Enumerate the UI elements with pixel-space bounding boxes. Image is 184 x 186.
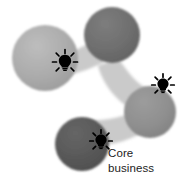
diagram-canvas: Core business xyxy=(0,0,184,186)
core-business-caption: Core business xyxy=(108,146,182,176)
node-top-right[interactable] xyxy=(84,7,140,63)
node-right[interactable] xyxy=(124,86,176,138)
caption-line-1: Core xyxy=(108,146,182,161)
caption-line-2: business xyxy=(108,161,182,176)
